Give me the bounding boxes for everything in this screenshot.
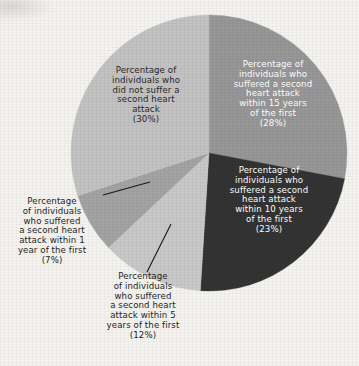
pie-chart: Percentage of individuals who suffered a… [0, 0, 359, 366]
pie-slice-within-15-years[interactable] [209, 15, 347, 179]
pie-slice-group [71, 15, 347, 291]
pie-chart-canvas [0, 0, 359, 366]
